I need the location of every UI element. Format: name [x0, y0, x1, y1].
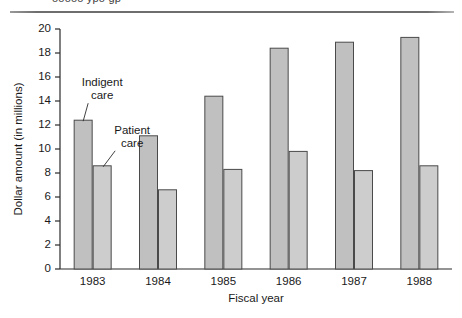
annotation-indigent-care-leader-line	[83, 103, 88, 121]
x-axis-tick-label: 1985	[211, 275, 237, 287]
annotation-patient-care-line1: Patient	[114, 124, 151, 136]
y-axis-tick-label: 2	[45, 238, 51, 250]
bar-indigent-care	[336, 42, 354, 269]
bar-indigent-care	[205, 96, 223, 269]
bar-patient-care	[93, 166, 111, 269]
annotation-patient-care-leader-line	[103, 151, 115, 167]
y-axis-tick-label: 16	[38, 70, 51, 82]
x-axis-title: Fiscal year	[228, 292, 284, 304]
bar-indigent-care	[140, 136, 158, 269]
annotation-indigent-care-line2: care	[91, 89, 113, 101]
bar-patient-care	[355, 171, 373, 269]
bar-chart: 02468101214161820Dollar amount (in milli…	[0, 0, 462, 318]
bar-patient-care	[224, 169, 242, 269]
bar-indigent-care	[401, 37, 419, 269]
bar-indigent-care	[270, 48, 288, 269]
annotation-indigent-care-line1: Indigent	[82, 76, 124, 88]
x-axis-tick-label: 1986	[276, 275, 302, 287]
y-axis-title: Dollar amount (in millions)	[12, 82, 24, 215]
y-axis-tick-label: 8	[45, 166, 51, 178]
y-axis-tick-label: 0	[45, 262, 51, 274]
figure-container: ooooo ypo gp 02468101214161820Dollar amo…	[0, 0, 462, 318]
y-axis-tick-label: 4	[45, 214, 52, 226]
annotation-patient-care-line2: care	[121, 137, 143, 149]
y-axis-tick-label: 6	[45, 190, 51, 202]
x-axis-tick-label: 1983	[80, 275, 106, 287]
bar-patient-care	[289, 151, 307, 269]
y-axis-tick-label: 12	[38, 118, 51, 130]
bar-indigent-care	[74, 120, 92, 269]
bar-patient-care	[420, 166, 438, 269]
bar-patient-care	[159, 190, 177, 269]
y-axis-tick-label: 10	[38, 142, 51, 154]
y-axis-tick-label: 20	[38, 22, 51, 34]
x-axis-tick-label: 1988	[407, 275, 433, 287]
x-axis-tick-label: 1987	[341, 275, 367, 287]
y-axis-tick-label: 14	[38, 94, 51, 106]
x-axis-tick-label: 1984	[145, 275, 171, 287]
y-axis-tick-label: 18	[38, 46, 51, 58]
